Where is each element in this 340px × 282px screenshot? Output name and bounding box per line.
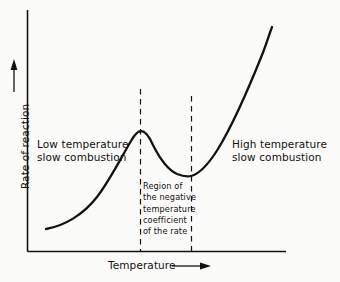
y-axis-arrow-icon: [11, 59, 18, 92]
annotation-low-temperature: Low temperature slow combustion: [37, 138, 129, 164]
annotation-high-temperature: High temperature slow combustion: [232, 138, 327, 164]
reaction-rate-chart-figure: Low temperature slow combustion High tem…: [0, 0, 340, 282]
x-axis-arrow-icon: [172, 262, 211, 269]
x-axis-label: Temperature: [108, 259, 176, 272]
y-axis-label: Rate of reaction: [19, 91, 32, 201]
annotation-negative-temperature-coefficient: Region of the negative temperature coeff…: [143, 181, 196, 238]
